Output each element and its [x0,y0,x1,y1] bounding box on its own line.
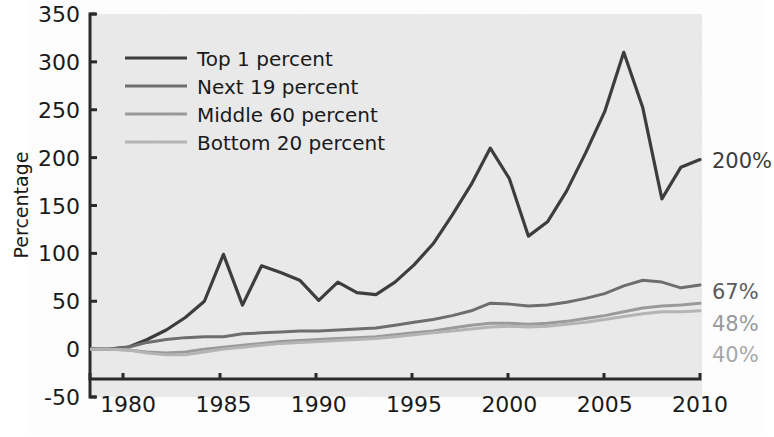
y-tick-label: 150 [38,194,80,219]
y-tick-label: 50 [52,289,80,314]
x-tick-label: 2000 [481,392,537,417]
end-label-2: 67% [712,280,759,304]
x-tick-label: 2010 [672,392,728,417]
y-tick-label: 0 [66,337,80,362]
x-tick-label: 1990 [291,392,347,417]
legend-label-1: Top 1 percent [196,47,333,71]
y-tick-label: -50 [44,385,80,410]
plot-background-noise [90,14,702,397]
y-tick-label: 350 [38,2,80,27]
x-tick-label: 1980 [100,392,156,417]
x-tick-label: 1995 [386,392,442,417]
legend-label-4: Bottom 20 percent [197,131,385,155]
end-label-3: 48% [712,312,759,336]
chart-figure: -50050100150200250300350 198019851990199… [0,0,774,437]
end-label-4: 40% [712,343,759,367]
y-axis-tick-labels: -50050100150200250300350 [38,2,80,410]
y-axis: -50050100150200250300350 [38,2,97,410]
y-tick-label: 250 [38,98,80,123]
y-tick-label: 200 [38,146,80,171]
y-axis-title: Percentage [10,152,32,259]
series-end-labels: 200%67%48%40% [712,149,772,367]
y-tick-label: 300 [38,50,80,75]
x-tick-label: 1985 [195,392,251,417]
x-tick-label: 2005 [577,392,633,417]
end-label-1: 200% [712,149,772,173]
legend-label-2: Next 19 percent [197,75,359,99]
legend-label-3: Middle 60 percent [197,103,378,127]
y-tick-label: 100 [38,241,80,266]
line-chart: -50050100150200250300350 198019851990199… [0,0,774,437]
